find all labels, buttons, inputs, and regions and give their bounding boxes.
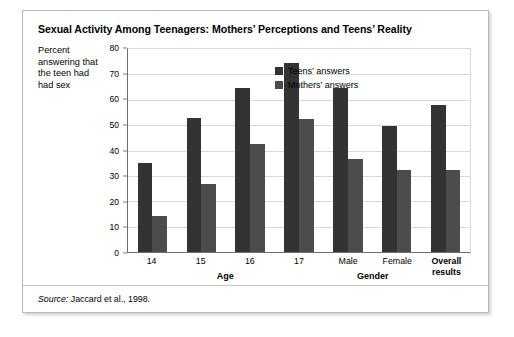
- bar: [446, 170, 461, 252]
- legend-label: Mothers’ answers: [288, 80, 358, 90]
- bar-group: [177, 49, 226, 252]
- legend-item: Mothers’ answers: [275, 80, 358, 90]
- legend-swatch-icon: [275, 67, 283, 75]
- y-tick-label: 0: [114, 248, 119, 258]
- figure-container: Sexual Activity Among Teenagers: Mothers…: [22, 10, 489, 313]
- chart-legend: Teens’ answersMothers’ answers: [275, 66, 358, 94]
- y-axis-ticks: 01020304050607080: [101, 48, 123, 253]
- x-tick-label: Overallresults: [422, 256, 471, 277]
- legend-label: Teens’ answers: [288, 66, 350, 76]
- source-prefix: Source:: [38, 294, 68, 304]
- legend-item: Teens’ answers: [275, 66, 358, 76]
- bar: [299, 119, 314, 252]
- bar: [431, 105, 446, 252]
- bar: [152, 216, 167, 252]
- y-tick-label: 60: [109, 94, 119, 104]
- x-axis-category-labels: 14151617MaleFemaleOverallresults: [127, 256, 471, 277]
- bar-group: [226, 49, 275, 252]
- y-tick-label: 30: [109, 171, 119, 181]
- y-tick-label: 50: [109, 120, 119, 130]
- bar: [138, 163, 153, 252]
- x-axis-group-label: Age: [217, 271, 234, 281]
- bar: [397, 170, 412, 252]
- y-axis-label: Percent answering that the teen had had …: [38, 45, 100, 91]
- legend-swatch-icon: [275, 81, 283, 89]
- chart-title: Sexual Activity Among Teenagers: Mothers…: [38, 23, 412, 35]
- bar: [187, 118, 202, 252]
- source-text: Jaccard et al., 1998.: [71, 294, 150, 304]
- y-tick-label: 10: [109, 222, 119, 232]
- bar-group: [421, 49, 470, 252]
- bar: [348, 159, 363, 252]
- bar: [235, 88, 250, 252]
- x-tick-label: 17: [274, 256, 323, 277]
- y-tick-label: 20: [109, 197, 119, 207]
- source-note: Source: Jaccard et al., 1998.: [38, 294, 150, 304]
- y-tick-label: 40: [109, 146, 119, 156]
- bar: [333, 88, 348, 252]
- divider: [23, 285, 488, 286]
- bar-group: [372, 49, 421, 252]
- x-tick-label: 14: [127, 256, 176, 277]
- y-tick-label: 70: [109, 69, 119, 79]
- bar: [201, 184, 216, 253]
- x-axis-group-label: Gender: [357, 271, 389, 281]
- bar-group: [128, 49, 177, 252]
- bar: [250, 144, 265, 252]
- bar: [382, 126, 397, 252]
- y-tick-label: 80: [109, 43, 119, 53]
